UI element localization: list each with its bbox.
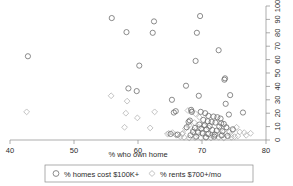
data-point: [109, 15, 114, 20]
y-tick-label: 50: [273, 69, 282, 77]
data-point: [226, 112, 231, 117]
data-point: [123, 110, 129, 116]
data-point: [25, 54, 30, 59]
y-tick-label: 40: [273, 82, 282, 90]
x-tick-label: 70: [198, 146, 206, 155]
y-axis-ticks: 0102030405060708090100: [266, 0, 282, 142]
chart-canvas: 4050607080 0102030405060708090100 % who …: [0, 0, 293, 186]
data-point: [197, 13, 202, 18]
x-tick-label: 50: [70, 146, 78, 155]
data-point: [240, 110, 245, 115]
data-point: [223, 101, 228, 106]
y-tick-label: 90: [273, 15, 282, 23]
circle-marker-icon: [53, 171, 59, 177]
data-point: [206, 113, 211, 118]
data-point: [194, 30, 199, 35]
plot-area: [24, 13, 254, 140]
data-point: [134, 115, 140, 121]
data-point: [187, 118, 192, 123]
series-homes-markers: [25, 13, 245, 139]
legend-entry-rents[interactable]: % rents $700+/mo: [149, 170, 221, 179]
scatter-chart: 4050607080 0102030405060708090100 % who …: [0, 0, 293, 186]
y-tick-label: 80: [273, 29, 282, 37]
data-point: [216, 48, 221, 53]
y-tick-label: 60: [273, 55, 282, 63]
y-tick-label: 70: [273, 42, 282, 50]
x-tick-label: 80: [262, 146, 270, 155]
data-point: [124, 98, 130, 104]
y-tick-label: 30: [273, 96, 282, 104]
y-tick-label: 0: [273, 138, 282, 142]
data-point: [108, 93, 114, 99]
y-tick-label: 100: [273, 0, 282, 12]
legend: % homes cost $100K+ % rents $700+/mo: [45, 165, 253, 182]
data-point: [228, 93, 233, 98]
data-point: [183, 83, 188, 88]
y-axis: 0102030405060708090100: [266, 0, 282, 142]
data-point: [150, 30, 155, 35]
data-point: [147, 125, 153, 131]
legend-entry-homes[interactable]: % homes cost $100K+: [53, 170, 140, 179]
data-point: [137, 63, 142, 68]
x-tick-label: 40: [6, 146, 14, 155]
x-axis-title: % who own home: [108, 150, 167, 159]
data-point: [152, 109, 158, 115]
data-point: [196, 93, 201, 98]
y-tick-label: 20: [273, 109, 282, 117]
data-point: [126, 86, 131, 91]
data-point: [124, 30, 129, 35]
data-point: [169, 97, 174, 102]
data-point: [151, 19, 156, 24]
data-point: [134, 88, 139, 93]
legend-label-homes: % homes cost $100K+: [64, 170, 140, 179]
data-point: [215, 115, 220, 120]
data-point: [122, 124, 128, 130]
legend-label-rents: % rents $700+/mo: [160, 170, 221, 179]
diamond-marker-icon: [149, 171, 155, 177]
data-point: [186, 119, 191, 124]
data-point: [193, 58, 198, 63]
data-point: [24, 109, 30, 115]
y-tick-label: 10: [273, 122, 282, 130]
